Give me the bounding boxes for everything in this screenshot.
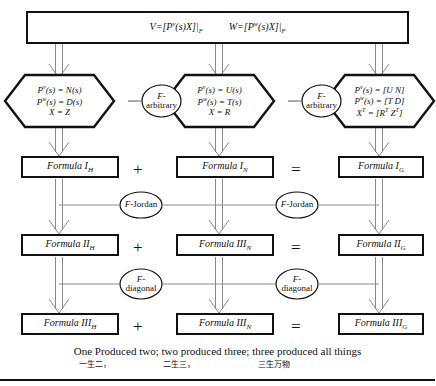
formula-1-H-label: Formula IH [47,160,93,174]
formula-box-2-N: Formula IIIN [176,234,274,256]
hexagon-H-line3: X = Z [49,107,70,118]
formula-box-1-H: Formula IH [21,156,119,178]
operator-equals-row2: = [291,239,301,256]
hexagon-H: Pv(s) = N(s) Pw(s) = D(s) X = Z [3,73,116,129]
hexagon-G-line3: XT = [RT ZT] [357,107,403,119]
f-jordan-right-label: F-Jordan [281,200,314,209]
hexagon-N-line3: X = R [209,107,231,118]
hexagon-H-line2: Pw(s) = D(s) [37,96,83,108]
ellipse-f-arbitrary-left: F- arbitrary [141,84,182,118]
formula-3-N-label: Formula IIIN [199,317,251,331]
formula-box-2-G: Formula IIG [338,234,424,256]
formula-3-G-label: Formula IIIG [355,317,408,331]
bottom-rule [0,379,435,381]
formula-3-H-label: Formula IIIH [44,317,97,331]
operator-plus-row1: + [133,161,143,178]
hexagon-G-line2: Pw(s) = [T D] [354,95,404,107]
formula-box-3-G: Formula IIIG [338,313,424,335]
formula-2-G-label: Formula IIG [356,238,405,252]
f-diagonal-left-label: diagonal [126,284,157,293]
f-arbitrary-right-label: arbitrary [306,101,337,110]
caption-chinese-3: 三生万物 [258,358,290,369]
caption-chinese-1: 一生二， [79,358,111,369]
hexagon-H-line1: Pv(s) = N(s) [38,84,82,96]
ellipse-f-arbitrary-right: F- arbitrary [301,84,342,118]
hexagon-N-line2: Pw(s) = T(s) [197,96,241,108]
hexagon-N-line1: Pv(s) = U(s) [197,84,241,96]
formula-box-1-G: Formula IG [338,156,424,178]
caption-chinese: 一生二， 二生三， 三生万物 [0,358,435,372]
formula-2-N-label: Formula IIIN [199,238,251,252]
formula-box-3-N: Formula IIIN [176,313,274,335]
formula-box-3-H: Formula IIIH [21,313,119,335]
caption-chinese-2: 二生三， [163,358,195,369]
operator-equals-row1: = [291,161,301,178]
f-arbitrary-left-label: arbitrary [146,101,177,110]
formula-1-N-label: Formula IN [202,160,248,174]
formula-box-1-N: Formula IN [176,156,274,178]
equation-v: V=[Pv(s)X]|F [150,20,203,34]
f-diagonal-right-label: diagonal [282,284,313,293]
operator-plus-row3: + [133,318,143,335]
formula-1-G-label: Formula IG [358,160,404,174]
hexagon-G-line1: Pv(s) = [U N] [354,84,404,96]
caption-english: One Produced two; two produced three; th… [0,345,435,357]
ellipse-f-diagonal-left: F- diagonal [119,268,163,300]
ellipse-f-jordan-right: F-Jordan [275,191,319,219]
operator-plus-row2: + [133,239,143,256]
definition-box: V=[Pv(s)X]|F W=[Pw(s)X]|F [26,11,409,44]
formula-2-H-label: Formula IIH [45,238,94,252]
caption: One Produced two; two produced three; th… [0,345,435,372]
equation-w: W=[Pw(s)X]|F [229,20,286,34]
ellipse-f-diagonal-right: F- diagonal [275,268,319,300]
f-jordan-left-label: F-Jordan [125,200,158,209]
ellipse-f-jordan-left: F-Jordan [119,191,163,219]
operator-equals-row3: = [291,318,301,335]
formula-box-2-H: Formula IIH [21,234,119,256]
